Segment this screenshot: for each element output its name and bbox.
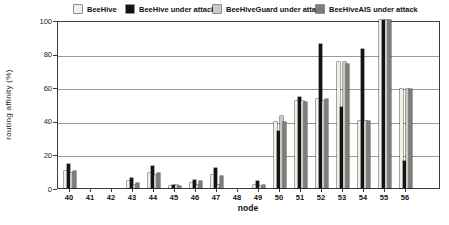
bar-beehiveais-under-attack — [262, 185, 265, 188]
bar-chart-figure: BeeHiveBeeHive under attackBeeHiveGuard … — [0, 0, 449, 225]
bar-beehiveais-under-attack — [346, 64, 349, 188]
x-tick-label: 50 — [268, 193, 290, 202]
x-tick-mark — [153, 189, 154, 192]
x-tick-label: 46 — [184, 193, 206, 202]
x-tick-mark — [279, 189, 280, 192]
x-tick-mark — [237, 189, 238, 192]
bar-group-node-44 — [148, 22, 161, 188]
bar-beehiveais-under-attack — [388, 20, 391, 188]
bar-group-node-53 — [337, 22, 350, 188]
y-tick-label: 20 — [28, 151, 52, 160]
bar-beehiveais-under-attack — [304, 102, 307, 188]
legend-label: BeeHive — [87, 5, 117, 14]
x-tick-label: 54 — [352, 193, 374, 202]
y-tick-mark — [53, 55, 57, 56]
legend-label: BeeHive under attack — [139, 5, 215, 14]
y-tick-mark — [53, 88, 57, 89]
y-tick-label: 0 — [28, 185, 52, 194]
bar-beehiveais-under-attack — [220, 176, 223, 188]
legend-item-beehiveguard-under-attack: BeeHiveGuard under attack — [213, 4, 324, 14]
x-tick-mark — [132, 189, 133, 192]
bar-group-node-47 — [211, 22, 224, 188]
bar-group-node-41 — [85, 22, 98, 188]
y-tick-label: 100 — [28, 17, 52, 26]
x-tick-mark — [216, 189, 217, 192]
bar-group-node-56 — [400, 22, 413, 188]
bar-beehiveais-under-attack — [73, 171, 76, 188]
x-tick-label: 40 — [58, 193, 80, 202]
y-tick-label: 40 — [28, 117, 52, 126]
y-axis-title: routing affinity (%) — [4, 35, 13, 175]
x-tick-label: 56 — [394, 193, 416, 202]
x-tick-label: 52 — [310, 193, 332, 202]
x-tick-label: 44 — [142, 193, 164, 202]
x-tick-mark — [90, 189, 91, 192]
bar-beehiveais-under-attack — [157, 173, 160, 188]
bar-group-node-51 — [295, 22, 308, 188]
legend-item-beehive-under-attack: BeeHive under attack — [126, 4, 215, 14]
bar-beehiveais-under-attack — [325, 99, 328, 188]
bar-group-node-46 — [190, 22, 203, 188]
y-tick-label: 60 — [28, 84, 52, 93]
x-tick-label: 45 — [163, 193, 185, 202]
y-tick-mark — [53, 21, 57, 22]
legend-swatch-icon — [213, 5, 221, 13]
bar-beehiveais-under-attack — [136, 183, 139, 188]
x-tick-label: 47 — [205, 193, 227, 202]
x-tick-mark — [384, 189, 385, 192]
x-tick-mark — [342, 189, 343, 192]
chart-legend: BeeHiveBeeHive under attackBeeHiveGuard … — [0, 4, 449, 16]
x-tick-mark — [174, 189, 175, 192]
bar-beehiveais-under-attack — [199, 181, 202, 188]
x-tick-mark — [321, 189, 322, 192]
bar-group-node-54 — [358, 22, 371, 188]
x-tick-label: 42 — [100, 193, 122, 202]
legend-item-beehiveais-under-attack: BeeHiveAIS under attack — [316, 4, 418, 14]
y-tick-label: 80 — [28, 50, 52, 59]
bar-beehiveais-under-attack — [283, 122, 286, 188]
plot-area — [57, 21, 440, 189]
y-tick-mark — [53, 155, 57, 156]
bar-group-node-49 — [253, 22, 266, 188]
x-tick-mark — [258, 189, 259, 192]
bar-group-node-42 — [106, 22, 119, 188]
legend-swatch-icon — [74, 5, 82, 13]
legend-swatch-icon — [126, 5, 134, 13]
legend-label: BeeHiveAIS under attack — [329, 5, 418, 14]
x-tick-label: 49 — [247, 193, 269, 202]
x-tick-mark — [300, 189, 301, 192]
y-tick-mark — [53, 189, 57, 190]
bar-beehiveais-under-attack — [178, 186, 181, 188]
x-tick-mark — [195, 189, 196, 192]
bar-group-node-50 — [274, 22, 287, 188]
legend-label: BeeHiveGuard under attack — [226, 5, 324, 14]
x-tick-mark — [405, 189, 406, 192]
x-tick-mark — [363, 189, 364, 192]
bar-beehiveais-under-attack — [367, 121, 370, 188]
bar-group-node-55 — [379, 22, 392, 188]
x-tick-label: 51 — [289, 193, 311, 202]
bar-group-node-52 — [316, 22, 329, 188]
legend-item-beehive: BeeHive — [74, 4, 117, 14]
x-tick-label: 41 — [79, 193, 101, 202]
bar-group-node-48 — [232, 22, 245, 188]
bar-group-node-43 — [127, 22, 140, 188]
y-tick-mark — [53, 122, 57, 123]
x-axis-title: node — [178, 203, 318, 213]
bar-group-node-40 — [64, 22, 77, 188]
x-tick-label: 55 — [373, 193, 395, 202]
x-tick-label: 53 — [331, 193, 353, 202]
x-tick-mark — [111, 189, 112, 192]
bar-beehiveais-under-attack — [409, 89, 412, 188]
x-tick-label: 43 — [121, 193, 143, 202]
x-tick-mark — [69, 189, 70, 192]
legend-swatch-icon — [316, 5, 324, 13]
bar-group-node-45 — [169, 22, 182, 188]
x-tick-label: 48 — [226, 193, 248, 202]
